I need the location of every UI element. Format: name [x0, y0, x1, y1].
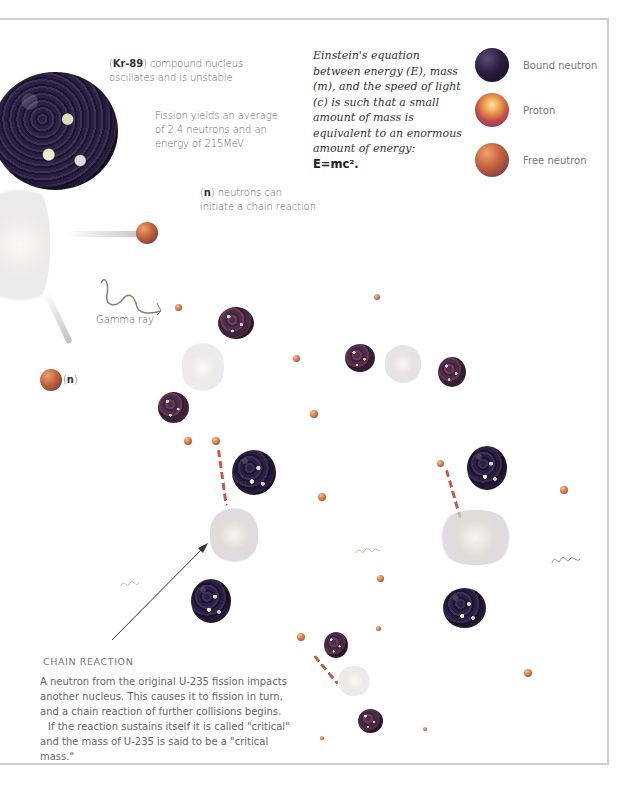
free-neutron: [40, 369, 62, 391]
uranium-nucleus: [191, 579, 231, 623]
free-neutron: [524, 669, 532, 677]
fission-fragment: [438, 357, 466, 387]
uranium-nucleus: [232, 450, 276, 495]
legend-item-bound-neutron: Bound neutron: [475, 48, 597, 82]
legend: Bound neutron Proton Free neutron: [475, 48, 605, 188]
free-neutron: [423, 727, 427, 731]
gamma-ray-icon: [551, 553, 581, 567]
neutrons-chain-annotation: (n) neutrons can initiate a chain reacti…: [200, 186, 316, 214]
free-neutron: [175, 304, 182, 311]
free-neutron: [297, 633, 305, 641]
fission-fragment: [324, 632, 348, 658]
impact-burst: [210, 507, 258, 563]
free-neutron: [136, 222, 158, 244]
fission-residue: [0, 175, 50, 315]
fission-burst: [438, 510, 513, 565]
gamma-ray-icon: [120, 578, 144, 590]
fission-burst: [385, 345, 421, 383]
chain-reaction-description: A neutron from the original U-235 fissio…: [40, 674, 295, 764]
einstein-equation-text: Einstein's equation between energy (E), …: [313, 48, 463, 172]
legend-item-proton: Proton: [475, 93, 555, 127]
chain-reaction-heading: CHAIN REACTION: [43, 656, 133, 667]
free-neutron: [212, 437, 220, 445]
free-neutron: [310, 410, 318, 418]
free-neutron-icon: [475, 143, 509, 177]
free-neutron: [184, 437, 192, 445]
kr89-annotation: (Kr-89) compound nucleus oscillates and …: [109, 57, 243, 85]
free-neutron: [437, 460, 444, 467]
free-neutron: [377, 575, 384, 582]
free-neutron: [374, 294, 380, 300]
uranium-nucleus: [467, 446, 507, 490]
gamma-ray-icon: [355, 545, 381, 557]
gamma-ray-label: Gamma ray: [96, 313, 154, 327]
legend-item-free-neutron: Free neutron: [475, 143, 587, 177]
fission-burst: [338, 666, 370, 696]
free-neutron: [560, 486, 568, 494]
uranium-nucleus: [443, 588, 486, 628]
free-neutron: [318, 493, 326, 501]
fission-fragment: [158, 392, 189, 423]
free-neutron: [320, 736, 324, 740]
free-neutron: [376, 626, 381, 631]
n-label: (n): [63, 373, 78, 387]
fission-fragment: [358, 709, 383, 733]
fission-fragment: [218, 307, 254, 339]
fission-fragment: [345, 344, 375, 372]
proton-icon: [475, 93, 509, 127]
free-neutron: [293, 355, 300, 362]
fission-burst: [182, 342, 224, 392]
emc2-equation: E=mc².: [313, 157, 359, 171]
bound-neutron-icon: [475, 48, 509, 82]
fission-yield-annotation: Fission yields an average of 2.4 neutron…: [155, 109, 278, 151]
